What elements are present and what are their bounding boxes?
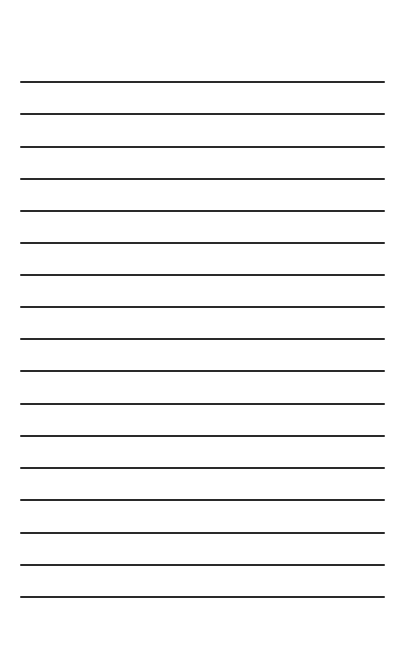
writing-line [20,210,385,212]
writing-line [20,370,385,372]
writing-line [20,113,385,115]
writing-line [20,306,385,308]
writing-line [20,564,385,566]
writing-line [20,435,385,437]
writing-line [20,178,385,180]
writing-line [20,274,385,276]
writing-line [20,403,385,405]
writing-line [20,242,385,244]
writing-line [20,499,385,501]
writing-line [20,338,385,340]
writing-line [20,467,385,469]
lined-paper-page [0,0,407,645]
writing-line [20,81,385,83]
writing-line [20,532,385,534]
writing-line [20,596,385,598]
writing-line [20,146,385,148]
